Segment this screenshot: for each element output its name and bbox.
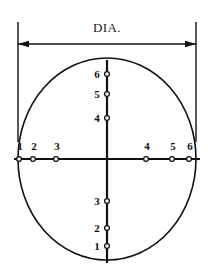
arrowhead-right-icon xyxy=(185,41,196,47)
diagram-canvas: DIA. 123456 654321 xyxy=(0,0,215,273)
diameter-label: DIA. xyxy=(93,20,121,36)
point-label: 6 xyxy=(187,140,193,152)
point-marker-icon xyxy=(105,199,110,204)
point-marker-icon xyxy=(170,157,175,162)
point-marker-icon xyxy=(187,157,192,162)
point-marker-icon xyxy=(31,157,36,162)
point-label: 2 xyxy=(94,222,100,234)
point-marker-icon xyxy=(144,157,149,162)
point-marker-icon xyxy=(105,72,110,77)
point-label: 2 xyxy=(31,140,37,152)
arrowhead-left-icon xyxy=(18,41,29,47)
point-label: 1 xyxy=(94,240,100,252)
point-label: 3 xyxy=(54,140,60,152)
point-marker-icon xyxy=(105,116,110,121)
point-marker-icon xyxy=(105,226,110,231)
point-marker-icon xyxy=(105,92,110,97)
point-marker-icon xyxy=(17,157,22,162)
diameter-dimension-arrow xyxy=(18,41,196,47)
point-label: 5 xyxy=(170,140,176,152)
point-label: 4 xyxy=(94,112,100,124)
point-marker-icon xyxy=(54,157,59,162)
point-label: 6 xyxy=(94,68,100,80)
point-label: 5 xyxy=(94,88,100,100)
point-label: 1 xyxy=(17,140,23,152)
point-label: 4 xyxy=(144,140,150,152)
point-marker-icon xyxy=(105,244,110,249)
point-label: 3 xyxy=(94,195,100,207)
circle-dimension-drawing xyxy=(0,0,215,273)
